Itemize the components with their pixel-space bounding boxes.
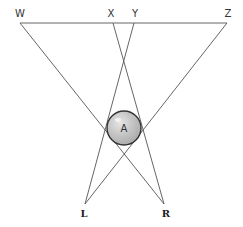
diagram-canvas: A W X Y Z L R xyxy=(0,0,243,227)
circle-label-a: A xyxy=(121,123,128,134)
circle-highlight xyxy=(115,118,121,122)
label-x: X xyxy=(108,8,115,19)
circle-a: A xyxy=(107,111,141,145)
label-y: Y xyxy=(131,8,139,19)
label-l: L xyxy=(80,208,87,219)
label-w: W xyxy=(15,8,25,19)
label-r: R xyxy=(162,208,171,219)
label-z: Z xyxy=(225,8,232,19)
